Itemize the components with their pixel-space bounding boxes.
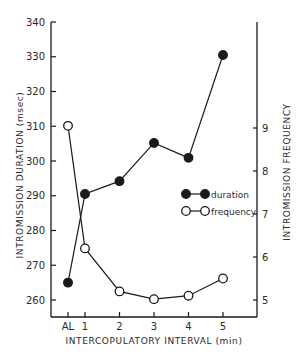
left-tick-label: 280 <box>26 225 45 236</box>
right-tick-label: 6 <box>262 252 268 263</box>
right-tick-label: 5 <box>262 295 268 306</box>
x-tick-label: 3 <box>151 321 157 332</box>
x-tick-label: 4 <box>185 321 191 332</box>
duration-line <box>68 55 223 283</box>
left-tick-label: 300 <box>26 156 45 167</box>
right-tick-label: 9 <box>262 123 268 134</box>
x-tick-label: AL <box>62 321 75 332</box>
chart-container: 26027028029030031032033034056789AL12345 … <box>0 0 301 362</box>
frequency-marker <box>219 274 228 283</box>
duration-marker <box>64 278 73 287</box>
axes <box>51 22 257 317</box>
legend-filled-marker-icon <box>201 190 210 199</box>
y2-axis-label: INTROMISSION FREQUENCY <box>282 103 292 240</box>
duration-marker <box>115 177 124 186</box>
duration-marker <box>219 51 228 60</box>
legend-label: frequency <box>211 207 257 217</box>
left-tick-label: 270 <box>26 260 45 271</box>
legend: durationfrequency <box>182 190 257 217</box>
legend-open-marker-icon <box>201 207 210 216</box>
x-tick-label: 1 <box>82 321 88 332</box>
frequency-marker <box>150 295 159 304</box>
frequency-marker <box>184 291 193 300</box>
legend-label: duration <box>211 190 249 200</box>
y-axis-label: INTROMISSION DURATION (msec) <box>15 92 25 259</box>
duration-marker <box>81 190 90 199</box>
x-tick-label: 5 <box>220 321 226 332</box>
duration-marker <box>150 139 159 148</box>
x-axis-label: INTERCOPULATORY INTERVAL (min) <box>66 336 243 346</box>
left-tick-label: 320 <box>26 86 45 97</box>
left-tick-label: 340 <box>26 17 45 28</box>
left-tick-label: 260 <box>26 295 45 306</box>
frequency-marker <box>64 122 73 131</box>
legend-open-marker-icon <box>182 207 191 216</box>
left-tick-label: 330 <box>26 51 45 62</box>
duration-marker <box>184 154 193 163</box>
left-tick-label: 310 <box>26 121 45 132</box>
series <box>64 51 228 304</box>
chart-svg: 26027028029030031032033034056789AL12345 … <box>0 0 301 362</box>
right-tick-label: 8 <box>262 166 268 177</box>
legend-filled-marker-icon <box>182 190 191 199</box>
right-tick-label: 7 <box>262 209 268 220</box>
ticks: 26027028029030031032033034056789AL12345 <box>26 17 268 333</box>
axis-labels: INTERCOPULATORY INTERVAL (min) INTROMISS… <box>15 92 292 346</box>
frequency-marker <box>81 244 90 253</box>
x-tick-label: 2 <box>116 321 122 332</box>
frequency-marker <box>115 287 124 296</box>
left-tick-label: 290 <box>26 190 45 201</box>
